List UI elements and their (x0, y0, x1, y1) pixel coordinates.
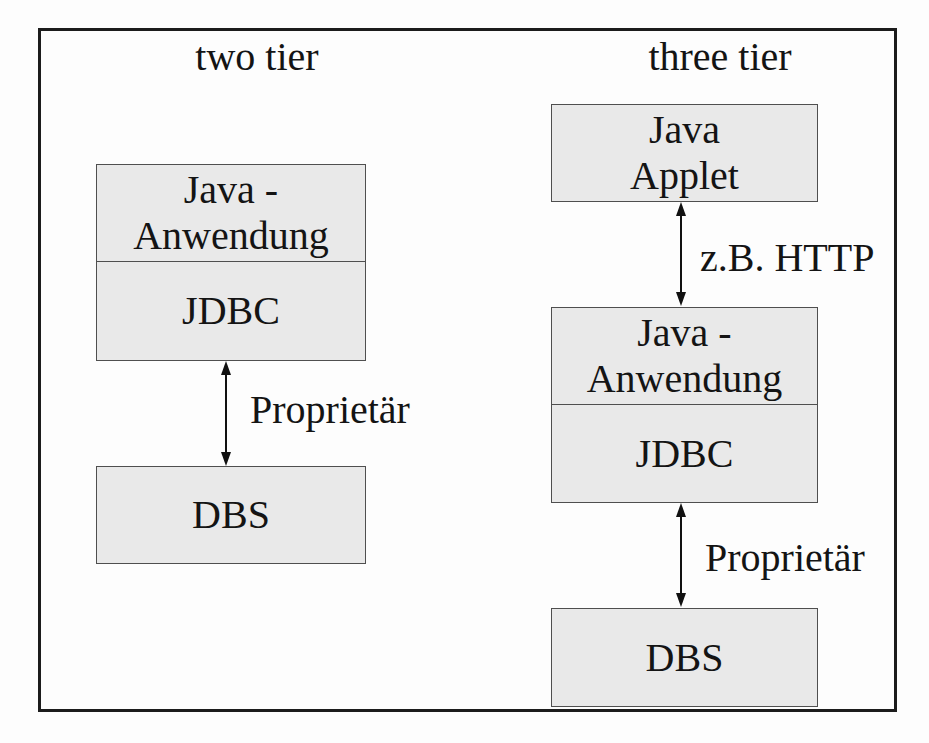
three-tier-http-double-arrow-icon (670, 202, 692, 306)
three-tier-title: three tier (580, 34, 860, 80)
two-tier-dbs-section: DBS (97, 467, 365, 563)
two-tier-java-application-box: Java - Anwendung JDBC (96, 164, 366, 361)
three-tier-dbs-label: DBS (646, 635, 724, 681)
three-tier-app-line2: Anwendung (587, 356, 783, 402)
two-tier-proprietary-label: Proprietär (250, 386, 410, 434)
two-tier-dbs-box: DBS (96, 466, 366, 564)
two-tier-proprietary-double-arrow-icon (215, 361, 237, 466)
three-tier-proprietary-double-arrow-icon (670, 503, 692, 607)
two-tier-jdbc-section: JDBC (97, 262, 365, 360)
three-tier-jdbc-section: JDBC (552, 405, 817, 502)
jdbc-architecture-diagram: two tier Java - Anwendung JDBC Proprietä… (0, 0, 929, 743)
three-tier-application-section: Java - Anwendung (552, 308, 817, 405)
three-tier-dbs-box: DBS (551, 608, 818, 707)
three-tier-applet-line2: Applet (630, 153, 739, 199)
two-tier-dbs-label: DBS (192, 492, 270, 538)
three-tier-app-line1: Java - (637, 310, 731, 356)
two-tier-app-line2: Anwendung (133, 213, 329, 259)
three-tier-applet-line1: Java (649, 107, 720, 153)
three-tier-jdbc-label: JDBC (636, 431, 734, 477)
three-tier-java-application-box: Java - Anwendung JDBC (551, 307, 818, 503)
three-tier-java-applet-box: Java Applet (551, 104, 818, 202)
three-tier-http-label: z.B. HTTP (700, 234, 874, 282)
three-tier-applet-section: Java Applet (552, 105, 817, 201)
three-tier-dbs-section: DBS (552, 609, 817, 706)
two-tier-title: two tier (117, 34, 397, 80)
two-tier-app-line1: Java - (184, 167, 278, 213)
two-tier-application-section: Java - Anwendung (97, 165, 365, 262)
three-tier-proprietary-label: Proprietär (705, 534, 865, 582)
two-tier-jdbc-label: JDBC (182, 288, 280, 334)
